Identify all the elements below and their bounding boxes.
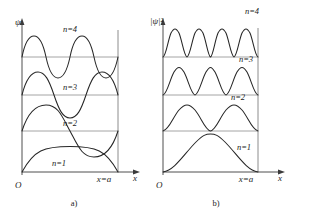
panel-b-x-axis-label: x: [277, 173, 282, 183]
scan-artifact-text: [0, 0, 310, 10]
panel-b-origin-label: O: [156, 180, 163, 190]
panel-a-origin-label: O: [15, 180, 22, 190]
panel-a-x-axis-label: x: [132, 173, 137, 183]
panel-b-label-n3: n=3: [239, 54, 253, 64]
panel-a: n=1 n=2 n=3 n=4 ψ x x=a O a): [15, 17, 140, 208]
panel-b-label-n2: n=2: [231, 92, 246, 102]
panel-b-curve-n3: [163, 68, 258, 96]
panel-b-curve-n2: [163, 105, 258, 131]
panel-b-curve-n4: [163, 29, 258, 57]
panel-a-label-n3: n=3: [63, 82, 77, 92]
panel-b-curve-n1: [163, 134, 258, 172]
panel-b-label-n1: n=1: [237, 142, 251, 152]
panel-a-label-n4: n=4: [63, 24, 78, 34]
panel-a-label-n1: n=1: [52, 158, 66, 168]
panel-b-wall-label: x=a: [238, 174, 254, 184]
panel-a-curve-n1: [22, 147, 118, 173]
panel-b-y-axis-label: |ψ|²: [150, 16, 164, 26]
panel-a-wall-label: x=a: [96, 174, 112, 184]
panel-b: n=1 n=2 n=3 n=4 |ψ|² x x=a O b): [150, 6, 285, 208]
quantum-well-figure: n=1 n=2 n=3 n=4 ψ x x=a O a): [0, 0, 310, 213]
figure-svg: n=1 n=2 n=3 n=4 ψ x x=a O a): [0, 0, 310, 213]
panel-a-y-axis-label: ψ: [15, 17, 21, 27]
panel-a-label-n2: n=2: [63, 118, 78, 128]
panel-b-caption: b): [212, 198, 219, 208]
panel-a-caption: a): [71, 198, 78, 208]
